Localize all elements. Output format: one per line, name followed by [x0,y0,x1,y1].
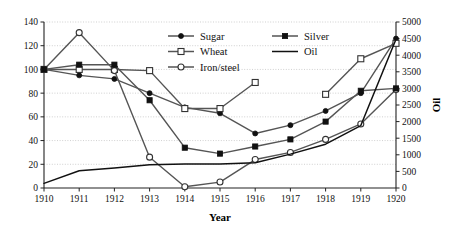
y-tick-label-0: 0 [33,183,38,193]
data-point-1920 [393,86,398,91]
data-point-1912 [112,76,117,81]
x-tick-label-1918: 1918 [316,194,335,204]
legend-label-silver: Silver [304,31,330,42]
y2-tick-label-5000: 5000 [402,17,421,27]
y-tick-label-20: 20 [29,160,39,170]
data-point-1913 [147,91,152,96]
data-point-1911 [76,30,82,36]
x-tick-label-1919: 1919 [351,194,370,204]
data-point-1918 [323,119,328,124]
data-point-1915 [217,151,222,156]
data-point-1917 [288,123,293,128]
y2-tick-label-3500: 3500 [402,67,421,77]
data-point-1919 [358,88,363,93]
legend-marker-iron-steel [178,64,184,70]
y-tick-label-120: 120 [24,41,39,51]
x-tick-label-1915: 1915 [211,194,230,204]
y2-tick-label-500: 500 [402,167,417,177]
data-point-1916 [253,144,258,149]
legend-label-sugar: Sugar [200,31,225,42]
data-point-1911 [77,62,82,67]
data-point-1912 [112,62,117,67]
data-point-1918 [323,91,329,97]
data-point-1915 [217,106,223,112]
y-tick-label-80: 80 [29,89,39,99]
data-point-1914 [182,106,188,112]
data-point-1910 [41,67,46,72]
y-tick-label-40: 40 [29,136,39,146]
x-tick-label-1920: 1920 [387,194,406,204]
data-point-1916 [253,131,258,136]
x-tick-label-1910: 1910 [35,194,54,204]
data-point-1912 [111,68,117,74]
y2-tick-label-3000: 3000 [402,84,421,94]
y2-tick-label-2000: 2000 [402,117,421,127]
legend-label-iron-steel: Iron/steel [200,62,240,73]
y2-tick-label-2500: 2500 [402,100,421,110]
legend-marker-silver [282,33,287,38]
legend-label-wheat: Wheat [200,46,227,57]
y2-tick-label-4000: 4000 [402,51,421,61]
data-point-1917 [288,137,293,142]
data-point-1914 [182,184,188,190]
data-point-1919 [358,56,364,62]
data-point-1914 [182,145,187,150]
y-tick-label-140: 140 [24,17,39,27]
line-chart: 0204060801001201400500100015002000250030… [0,0,458,238]
y-tick-label-60: 60 [29,112,39,122]
data-point-1915 [217,179,223,185]
x-tick-label-1914: 1914 [175,194,194,204]
legend-marker-wheat [178,49,184,55]
x-tick-label-1917: 1917 [281,194,300,204]
data-point-1913 [147,154,153,160]
chart-container: 0204060801001201400500100015002000250030… [0,0,458,238]
y2-tick-label-1000: 1000 [402,150,421,160]
data-point-1913 [147,98,152,103]
data-point-1916 [252,79,258,85]
x-axis-title: Year [209,211,231,223]
y2-tick-label-0: 0 [402,183,407,193]
x-tick-label-1911: 1911 [70,194,89,204]
legend-label-oil: Oil [304,46,318,57]
y2-tick-label-1500: 1500 [402,134,421,144]
y2-axis-title: Oil [430,98,442,113]
x-tick-label-1913: 1913 [140,194,159,204]
y2-tick-label-4500: 4500 [402,34,421,44]
legend-marker-sugar [179,34,184,39]
data-point-1911 [77,73,82,78]
y-tick-label-100: 100 [24,65,39,75]
x-tick-label-1916: 1916 [246,194,265,204]
data-point-1918 [323,108,328,113]
x-tick-label-1912: 1912 [105,194,124,204]
data-point-1913 [147,68,153,74]
data-point-1918 [323,136,329,142]
